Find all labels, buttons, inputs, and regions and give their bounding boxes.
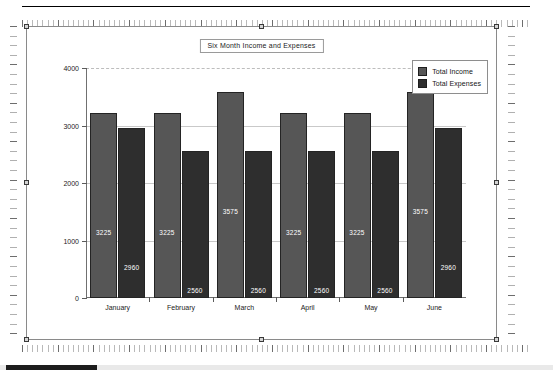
bar-value-label: 2560: [251, 287, 266, 294]
bar-may-total-expenses[interactable]: 2560: [372, 151, 399, 298]
bar-value-label: 2960: [441, 264, 456, 271]
bar-value-label: 3225: [349, 229, 364, 236]
resize-handle-top-right-icon[interactable]: [494, 24, 499, 29]
x-axis-label-april: April: [301, 304, 315, 311]
bar-value-label: 2960: [124, 264, 139, 271]
bar-january-total-income[interactable]: 3225: [90, 113, 117, 298]
horizontal-scrollbar[interactable]: [0, 365, 553, 370]
legend-swatch-expenses-icon: [418, 79, 427, 88]
resize-handle-top-left-icon[interactable]: [24, 24, 29, 29]
bar-may-total-income[interactable]: 3225: [344, 113, 371, 298]
bar-value-label: 2560: [187, 287, 202, 294]
horizontal-scrollbar-thumb[interactable]: [6, 365, 97, 370]
x-axis-tick: [213, 297, 214, 302]
y-axis-tick: [82, 126, 87, 127]
bar-april-total-income[interactable]: 3225: [280, 113, 307, 298]
bar-value-label: 3575: [413, 208, 428, 215]
legend-label-total-income: Total Income: [432, 68, 473, 75]
x-axis-label-march: March: [235, 304, 254, 311]
chart-object-frame[interactable]: Six Month Income and Expenses Total Inco…: [26, 26, 497, 340]
bar-january-total-expenses[interactable]: 2960: [118, 128, 145, 298]
vertical-ruler-left[interactable]: [10, 26, 17, 340]
resize-handle-bottom-left-icon[interactable]: [24, 337, 29, 342]
y-axis-label: 3000: [63, 122, 79, 129]
bar-february-total-expenses[interactable]: 2560: [182, 151, 209, 298]
plot-area[interactable]: 0100020003000400032252960January32252560…: [86, 68, 466, 298]
y-axis-label: 4000: [63, 65, 79, 72]
x-axis-label-january: January: [105, 304, 130, 311]
bar-february-total-income[interactable]: 3225: [154, 113, 181, 298]
y-axis-tick: [82, 68, 87, 69]
bar-june-total-income[interactable]: 3575: [407, 92, 434, 298]
bar-value-label: 2560: [377, 287, 392, 294]
y-axis-tick: [82, 183, 87, 184]
legend-label-total-expenses: Total Expenses: [432, 80, 481, 87]
vertical-ruler-right[interactable]: [508, 26, 515, 340]
x-axis-label-february: February: [167, 304, 195, 311]
legend-item-total-income[interactable]: Total Income: [418, 65, 481, 77]
chart-title: Six Month Income and Expenses: [199, 39, 323, 53]
legend-item-total-expenses[interactable]: Total Expenses: [418, 77, 481, 89]
gridline: [86, 68, 466, 70]
chart-document-canvas: Six Month Income and Expenses Total Inco…: [0, 0, 553, 372]
bar-value-label: 3225: [286, 229, 301, 236]
bar-value-label: 3575: [223, 208, 238, 215]
bar-april-total-expenses[interactable]: 2560: [308, 151, 335, 298]
x-axis-tick: [403, 297, 404, 302]
resize-handle-middle-left-icon[interactable]: [24, 180, 29, 185]
legend-swatch-income-icon: [418, 67, 427, 76]
y-axis-label: 2000: [63, 180, 79, 187]
resize-handle-bottom-center-icon[interactable]: [259, 337, 264, 342]
bar-value-label: 3225: [159, 229, 174, 236]
x-axis-tick: [339, 297, 340, 302]
resize-handle-top-center-icon[interactable]: [259, 24, 264, 29]
chart-legend[interactable]: Total Income Total Expenses: [412, 60, 488, 94]
y-axis-label: 1000: [63, 237, 79, 244]
bar-march-total-expenses[interactable]: 2560: [245, 151, 272, 298]
x-axis-label-may: May: [364, 304, 377, 311]
bar-march-total-income[interactable]: 3575: [217, 92, 244, 298]
bar-value-label: 3225: [96, 229, 111, 236]
bar-june-total-expenses[interactable]: 2960: [435, 128, 462, 298]
bar-value-label: 2560: [314, 287, 329, 294]
x-axis-tick: [276, 297, 277, 302]
resize-handle-bottom-right-icon[interactable]: [494, 337, 499, 342]
x-axis-tick: [149, 297, 150, 302]
y-axis-tick: [82, 241, 87, 242]
y-axis-label: 0: [75, 295, 79, 302]
x-axis-label-june: June: [427, 304, 442, 311]
document-top-rule: [22, 6, 530, 7]
horizontal-ruler-bottom[interactable]: [22, 345, 530, 352]
y-axis-tick: [82, 298, 87, 299]
resize-handle-middle-right-icon[interactable]: [494, 180, 499, 185]
